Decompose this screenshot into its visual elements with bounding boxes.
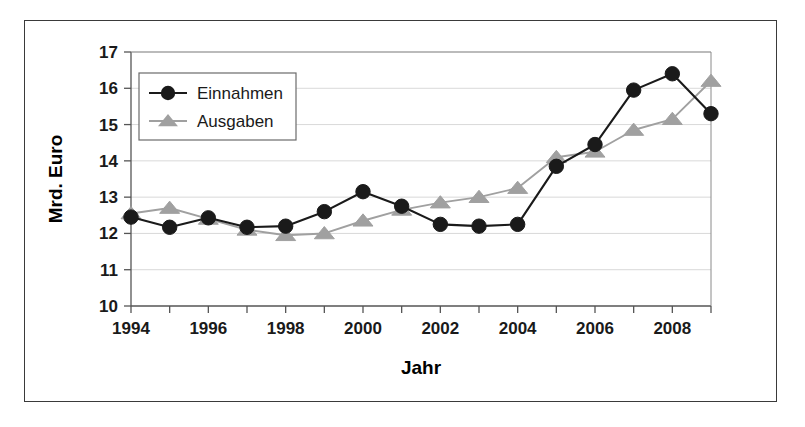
y-tick-label: 16 bbox=[99, 79, 118, 98]
data-point bbox=[662, 112, 682, 124]
y-tick-label: 15 bbox=[99, 116, 118, 135]
data-point bbox=[433, 217, 447, 231]
data-point bbox=[162, 220, 176, 234]
x-tick-label: 2008 bbox=[653, 319, 691, 338]
data-point bbox=[510, 217, 524, 231]
y-axis-title: Mrd. Euro bbox=[45, 135, 66, 224]
y-tick-label: 13 bbox=[99, 188, 118, 207]
data-point bbox=[394, 199, 408, 213]
data-point bbox=[665, 67, 679, 81]
data-point bbox=[701, 74, 721, 86]
legend-label-einnahmen: Einnahmen bbox=[197, 84, 283, 103]
chart-figure: 1011121314151617199419961998200020022004… bbox=[0, 0, 805, 427]
data-point bbox=[278, 219, 292, 233]
x-axis-title: Jahr bbox=[401, 357, 442, 378]
x-axis-ticks: 19941996199820002002200420062008 bbox=[112, 306, 711, 338]
x-tick-label: 2002 bbox=[421, 319, 459, 338]
x-tick-label: 2004 bbox=[499, 319, 537, 338]
data-point bbox=[353, 214, 373, 226]
x-tick-label: 2000 bbox=[344, 319, 382, 338]
data-point bbox=[160, 201, 180, 213]
data-point bbox=[472, 219, 486, 233]
data-point bbox=[549, 159, 563, 173]
y-axis-ticks: 1011121314151617 bbox=[99, 43, 131, 316]
y-tick-label: 12 bbox=[99, 224, 118, 243]
line-chart: 1011121314151617199419961998200020022004… bbox=[0, 0, 805, 427]
data-point bbox=[240, 220, 254, 234]
y-tick-label: 11 bbox=[100, 261, 118, 280]
x-tick-label: 2006 bbox=[576, 319, 614, 338]
data-point bbox=[626, 83, 640, 97]
y-tick-label: 17 bbox=[99, 43, 118, 62]
y-tick-label: 14 bbox=[99, 152, 118, 171]
data-point bbox=[704, 106, 718, 120]
y-tick-label: 10 bbox=[99, 297, 118, 316]
data-point bbox=[317, 204, 331, 218]
data-point bbox=[124, 210, 138, 224]
x-tick-label: 1996 bbox=[189, 319, 227, 338]
data-point bbox=[201, 211, 215, 225]
data-point bbox=[356, 185, 370, 199]
legend-marker-einnahmen bbox=[161, 86, 175, 100]
data-point bbox=[314, 227, 334, 239]
data-point bbox=[588, 137, 602, 151]
legend-label-ausgaben: Ausgaben bbox=[197, 112, 274, 131]
x-tick-label: 1994 bbox=[112, 319, 150, 338]
chart-legend: EinnahmenAusgaben bbox=[139, 73, 296, 140]
x-tick-label: 1998 bbox=[267, 319, 305, 338]
